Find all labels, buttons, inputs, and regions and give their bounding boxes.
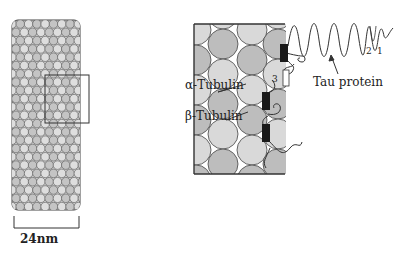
beta-tubulin-label: β-Tubulin xyxy=(185,109,243,123)
binding-domain xyxy=(280,44,288,62)
microtubule-tau-diagram xyxy=(0,0,412,255)
repeat-2-label: 2 xyxy=(366,46,372,56)
repeat-3-label: 3 xyxy=(272,74,278,84)
alpha-tubulin-label: α-Tubulin xyxy=(185,78,244,92)
zoomed-wall xyxy=(181,0,293,209)
binding-domain xyxy=(262,124,270,142)
diameter-label: 24nm xyxy=(20,232,58,246)
binding-domain xyxy=(262,92,270,110)
tau-arrow xyxy=(329,55,338,74)
tau-protein-label: Tau protein xyxy=(313,75,383,89)
microtubule-cylinder xyxy=(8,20,87,211)
repeat-1-label: 1 xyxy=(377,46,383,56)
scale-bracket xyxy=(14,216,79,228)
repeat-3-box xyxy=(283,70,289,86)
